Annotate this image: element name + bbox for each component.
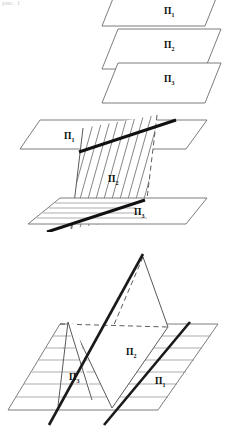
plane-1-outline xyxy=(102,0,221,26)
figure-parallel-planes: П1 П2 П3 xyxy=(0,0,226,108)
geometry-figure-sheet: рис. 1 П1 П2 xyxy=(0,0,226,427)
figure-two-planes-on-one-plane: П2 П3 П1 xyxy=(0,232,226,427)
plane-3-outline xyxy=(102,63,221,103)
lower-plane-outline xyxy=(28,198,207,224)
figure-two-planes-cut-by-third: П1 П2 П3 xyxy=(0,112,226,232)
